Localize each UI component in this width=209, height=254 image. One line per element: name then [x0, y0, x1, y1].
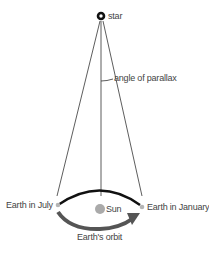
earth-dot-icon — [140, 205, 145, 210]
star-label: star — [108, 11, 122, 21]
sight-line-july — [57, 21, 100, 196]
sun-circle-icon — [95, 204, 105, 214]
parallax-angle-arc — [101, 79, 113, 81]
orbit-back-arc — [58, 191, 140, 206]
sight-line-january — [103, 21, 142, 196]
earth-in-january-label: Earth in January — [147, 202, 209, 212]
orbit-arrow-arc — [58, 212, 132, 229]
earth-in-july-label: Earth in July — [6, 200, 53, 210]
sun-label: Sun — [106, 204, 121, 214]
earths-orbit-label: Earth's orbit — [77, 232, 122, 242]
parallax-diagram — [0, 0, 209, 254]
angle-of-parallax-label: angle of parallax — [114, 73, 177, 83]
ring-star-icon — [98, 13, 104, 19]
earth-dot-icon — [56, 203, 61, 208]
